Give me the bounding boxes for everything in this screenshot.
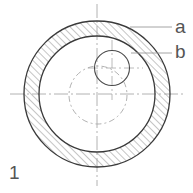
callout-label-a: a (175, 17, 186, 36)
callout-label-b: b (175, 42, 186, 61)
pipe-wall-hatching (0, 0, 193, 193)
figure-number-label: 1 (9, 163, 20, 182)
pipe-cross-section-diagram (0, 0, 193, 193)
